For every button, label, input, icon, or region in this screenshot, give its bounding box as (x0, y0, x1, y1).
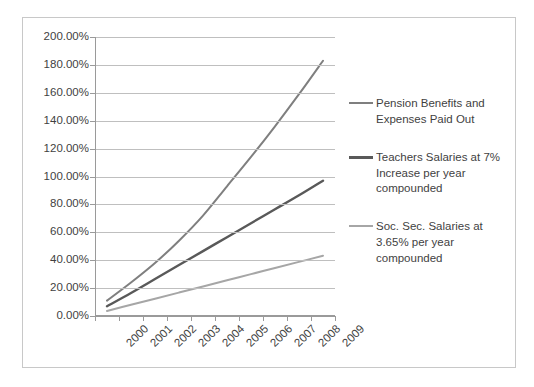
legend-color-swatch (349, 156, 373, 159)
x-axis-tick (287, 316, 288, 321)
gridline (95, 288, 335, 289)
x-axis-tick-label: 2001 (148, 323, 174, 349)
y-axis-tick-label: 80.00% (50, 199, 89, 211)
gridline (95, 260, 335, 261)
y-axis-tick-label: 20.00% (50, 282, 89, 294)
y-axis-tick-label: 60.00% (50, 227, 89, 239)
gridline (95, 232, 335, 233)
y-axis-tick (90, 121, 95, 122)
legend-color-swatch (349, 225, 373, 227)
x-axis-tick-label: 2006 (268, 323, 294, 349)
gridline (95, 204, 335, 205)
gridline (95, 121, 335, 122)
y-axis-tick (90, 93, 95, 94)
y-axis-tick (90, 232, 95, 233)
chart-legend: Pension Benefits and Expenses Paid OutTe… (349, 96, 509, 289)
series-line-3 (107, 256, 323, 311)
x-axis-tick-label: 2008 (316, 323, 342, 349)
x-axis-tick (311, 316, 312, 321)
x-axis-tick (191, 316, 192, 321)
legend-label: Teachers Salaries at 7% Increase per yea… (376, 150, 509, 198)
x-axis-tick (167, 316, 168, 321)
y-axis-tick-label: 140.00% (44, 115, 89, 127)
legend-entry-3[interactable]: Soc. Sec. Salaries at 3.65% per year com… (349, 219, 509, 267)
chart-canvas: 0.00%20.00%40.00%60.00%80.00%100.00%120.… (23, 18, 515, 367)
y-axis-tick (90, 260, 95, 261)
y-axis-tick (90, 37, 95, 38)
x-axis-tick-label: 2009 (340, 323, 366, 349)
x-axis-tick (263, 316, 264, 321)
gridline (95, 65, 335, 66)
y-axis-tick (90, 149, 95, 150)
x-axis-tick-label: 2000 (124, 323, 150, 349)
x-axis-tick-label: 2004 (220, 323, 246, 349)
y-axis-tick (90, 204, 95, 205)
x-axis-tick (335, 316, 336, 321)
y-axis-line (95, 37, 96, 316)
gridline (95, 149, 335, 150)
gridline (95, 37, 335, 38)
x-axis-tick-label: 2002 (172, 323, 198, 349)
legend-entry-1[interactable]: Pension Benefits and Expenses Paid Out (349, 96, 509, 128)
y-axis-labels: 0.00%20.00%40.00%60.00%80.00%100.00%120.… (23, 37, 89, 316)
x-axis-tick (215, 316, 216, 321)
y-axis-tick (90, 288, 95, 289)
x-axis-labels: 2000200120022003200420052006200720082009 (95, 323, 335, 383)
x-axis-tick (239, 316, 240, 321)
y-axis-tick-label: 180.00% (44, 59, 89, 71)
y-axis-tick-label: 100.00% (44, 171, 89, 183)
y-axis-tick (90, 65, 95, 66)
legend-color-swatch (349, 102, 373, 104)
y-axis-tick-label: 120.00% (44, 143, 89, 155)
chart-frame: 0.00%20.00%40.00%60.00%80.00%100.00%120.… (22, 17, 516, 368)
plot-area (95, 37, 335, 316)
y-axis-tick-label: 200.00% (44, 31, 89, 43)
x-axis-tick-label: 2003 (196, 323, 222, 349)
gridline (95, 177, 335, 178)
y-axis-tick (90, 177, 95, 178)
x-axis-tick (119, 316, 120, 321)
y-axis-tick-label: 160.00% (44, 87, 89, 99)
legend-entry-2[interactable]: Teachers Salaries at 7% Increase per yea… (349, 150, 509, 198)
gridline (95, 93, 335, 94)
legend-label: Pension Benefits and Expenses Paid Out (376, 96, 509, 128)
x-axis-tick-label: 2007 (292, 323, 318, 349)
legend-label: Soc. Sec. Salaries at 3.65% per year com… (376, 219, 509, 267)
y-axis-tick-label: 0.00% (56, 310, 89, 322)
x-axis-tick (95, 316, 96, 321)
y-axis-tick-label: 40.00% (50, 254, 89, 266)
x-axis-tick-label: 2005 (244, 323, 270, 349)
x-axis-tick (143, 316, 144, 321)
